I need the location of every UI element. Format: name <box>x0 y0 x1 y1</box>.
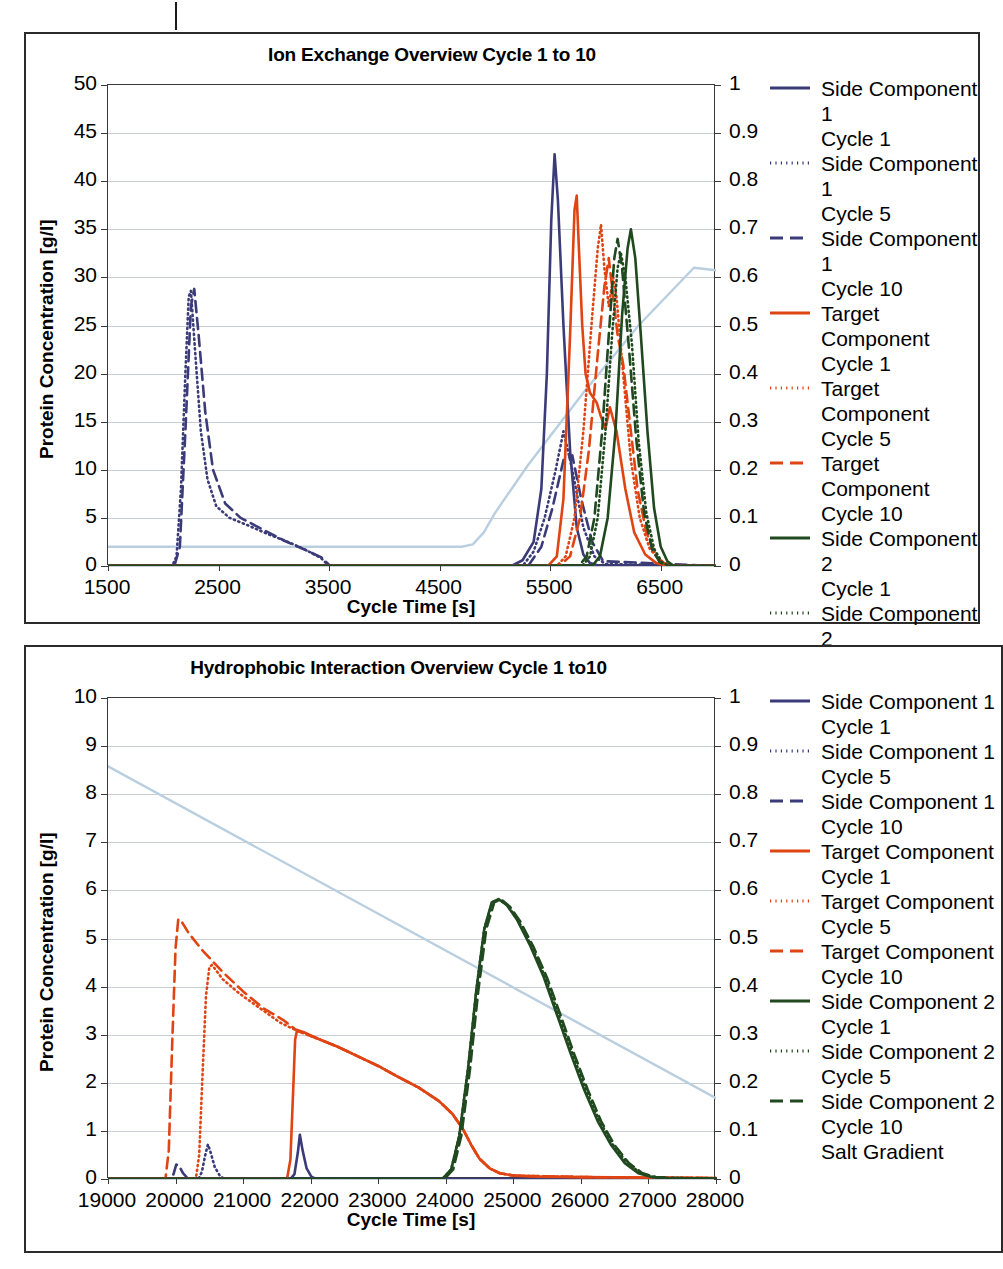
x-axis-tick-label: 4500 <box>389 575 489 599</box>
y-axis-tick <box>101 1083 108 1084</box>
legend-item[interactable]: Side Component 1 Cycle 10 <box>768 226 983 301</box>
legend-item[interactable]: Side Component 1 Cycle 5 <box>768 739 1003 789</box>
legend-item-label: Side Component 2 Cycle 1 <box>821 989 995 1039</box>
legend-item[interactable]: Target Component Cycle 1 <box>768 839 1003 889</box>
y2-axis-tick-label: 0.9 <box>729 732 758 756</box>
legend-line-swatch <box>768 226 812 248</box>
legend-line-swatch <box>768 689 812 711</box>
legend-item-label: Target Component Cycle 1 <box>821 301 983 376</box>
legend-line-swatch <box>768 376 812 398</box>
chart-series-canvas <box>108 85 716 566</box>
legend-item[interactable]: Side Component 1 Cycle 1 <box>768 76 983 151</box>
y-axis-tick <box>101 698 108 699</box>
legend-item[interactable]: Target Component Cycle 5 <box>768 889 1003 939</box>
legend-line-swatch <box>768 76 812 98</box>
x-axis-tick <box>716 1177 717 1184</box>
y-axis-tick <box>101 85 108 86</box>
y-axis-tick-label: 40 <box>35 167 97 191</box>
y-axis-tick-label: 0 <box>35 1165 97 1189</box>
legend-line-swatch <box>768 1089 812 1111</box>
legend-item[interactable]: Side Component 2 Cycle 1 <box>768 526 983 601</box>
legend-item-label: Target Component Cycle 5 <box>821 889 994 939</box>
legend-item[interactable]: Side Component 1 Cycle 10 <box>768 789 1003 839</box>
y2-axis-tick-label: 0.8 <box>729 780 758 804</box>
legend-item[interactable]: Side Component 2 Cycle 5 <box>768 1039 1003 1089</box>
y-axis-tick <box>101 374 108 375</box>
gridline <box>108 1179 714 1180</box>
y2-axis-tick-label: 0.6 <box>729 876 758 900</box>
y-axis-tick <box>101 229 108 230</box>
y-axis-tick-label: 30 <box>35 263 97 287</box>
y-axis-tick-label: 10 <box>35 684 97 708</box>
legend-line-swatch <box>768 839 812 861</box>
y2-axis-tick-label: 0.8 <box>729 167 758 191</box>
y-axis-tick <box>101 470 108 471</box>
y2-axis-tick-label: 0.3 <box>729 408 758 432</box>
x-axis-tick-label: 2500 <box>168 575 268 599</box>
y-axis-tick <box>101 422 108 423</box>
chart2-legend: Side Component 1 Cycle 1Side Component 1… <box>768 689 1003 1164</box>
y-axis-tick <box>101 746 108 747</box>
legend-item[interactable]: Salt Gradient <box>768 1139 1003 1164</box>
y2-axis-tick-label: 0.7 <box>729 215 758 239</box>
y-axis-tick-label: 20 <box>35 360 97 384</box>
legend-item[interactable]: Side Component 2 Cycle 1 <box>768 989 1003 1039</box>
series-line <box>108 766 716 1098</box>
legend-item-label: Target Component Cycle 10 <box>821 939 994 989</box>
legend-line-swatch <box>768 601 812 623</box>
legend-item-label: Side Component 1 Cycle 5 <box>821 739 995 789</box>
legend-item[interactable]: Target Component Cycle 5 <box>768 376 983 451</box>
series-line <box>108 291 716 566</box>
y2-axis-tick-label: 0.6 <box>729 263 758 287</box>
y-axis-tick-label: 25 <box>35 312 97 336</box>
chart-panel-hydrophobic-interaction: Hydrophobic Interaction Overview Cycle 1… <box>24 645 1003 1253</box>
legend-line-swatch <box>768 526 812 548</box>
y-axis-tick-label: 6 <box>35 876 97 900</box>
y-axis-tick-label: 3 <box>35 1021 97 1045</box>
y-axis-tick <box>101 518 108 519</box>
legend-item[interactable]: Side Component 1 Cycle 5 <box>768 151 983 226</box>
y-axis-tick-label: 5 <box>35 925 97 949</box>
legend-line-swatch <box>768 889 812 911</box>
y-axis-tick-label: 4 <box>35 973 97 997</box>
y-axis-tick <box>101 566 108 567</box>
legend-item[interactable]: Target Component Cycle 1 <box>768 301 983 376</box>
x-axis-tick-label: 3500 <box>278 575 378 599</box>
y2-axis-tick-label: 0.1 <box>729 1117 758 1141</box>
legend-line-swatch <box>768 451 812 473</box>
chart1-plot-area <box>107 84 715 565</box>
legend-item-label: Salt Gradient <box>821 1139 944 1164</box>
legend-item[interactable]: Target Component Cycle 10 <box>768 939 1003 989</box>
legend-item-label: Target Component Cycle 10 <box>821 451 983 526</box>
legend-item[interactable]: Target Component Cycle 10 <box>768 451 983 526</box>
legend-line-swatch <box>768 989 812 1011</box>
y-axis-tick <box>101 842 108 843</box>
y-axis-tick-label: 15 <box>35 408 97 432</box>
y-axis-tick <box>101 1035 108 1036</box>
chart1-x-axis-label: Cycle Time [s] <box>107 596 715 618</box>
y-axis-tick-label: 2 <box>35 1069 97 1093</box>
x-axis-tick-label: 28000 <box>665 1188 765 1212</box>
legend-item-label: Side Component 2 Cycle 5 <box>821 1039 995 1089</box>
chart2-plot-area <box>107 697 715 1178</box>
legend-item[interactable]: Side Component 1 Cycle 1 <box>768 689 1003 739</box>
legend-item-label: Target Component Cycle 5 <box>821 376 983 451</box>
legend-line-swatch <box>768 151 812 173</box>
legend-item-label: Side Component 2 Cycle 10 <box>821 1089 995 1139</box>
y2-axis-tick-label: 0.1 <box>729 504 758 528</box>
y2-axis-tick <box>714 566 721 567</box>
y2-axis-tick-label: 0.9 <box>729 119 758 143</box>
legend-line-swatch <box>768 1039 812 1061</box>
legend-line-swatch <box>768 739 812 761</box>
series-line <box>108 289 716 566</box>
y-axis-tick-label: 1 <box>35 1117 97 1141</box>
top-margin-rule <box>175 2 177 30</box>
y-axis-tick <box>101 794 108 795</box>
chart2-title: Hydrophobic Interaction Overview Cycle 1… <box>0 657 886 679</box>
y2-axis-tick-label: 0 <box>729 1165 741 1189</box>
y2-axis-tick-label: 0.4 <box>729 360 758 384</box>
y2-axis-tick-label: 0.2 <box>729 456 758 480</box>
y-axis-tick-label: 0 <box>35 552 97 576</box>
x-axis-tick-label: 6500 <box>610 575 710 599</box>
legend-item[interactable]: Side Component 2 Cycle 10 <box>768 1089 1003 1139</box>
